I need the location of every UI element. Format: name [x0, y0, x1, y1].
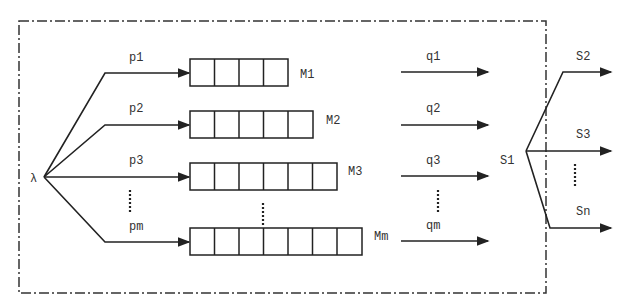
prob-label-2: p2	[129, 102, 143, 116]
outflow-label-2: q2	[426, 102, 440, 116]
queue-label-2: M2	[326, 114, 340, 128]
fanout-arrow-sn	[526, 151, 611, 228]
queue-m1	[190, 59, 288, 86]
queue-label-m: Mm	[374, 230, 388, 244]
server-label: S1	[500, 154, 514, 168]
queue-m3	[190, 163, 337, 190]
queue-label-1: M1	[300, 68, 314, 82]
queue-label-3: M3	[348, 165, 362, 179]
prob-label-1: p1	[129, 51, 143, 65]
outflow-label-1: q1	[426, 50, 440, 64]
downstream-label-s3: S3	[576, 128, 590, 142]
queue-mm	[190, 228, 362, 255]
fanout-arrow-s2	[526, 72, 611, 151]
branch-arrow-m	[44, 177, 189, 242]
prob-label-m: pm	[129, 220, 143, 234]
queue-m2	[190, 111, 313, 138]
downstream-label-sn: Sn	[576, 205, 590, 219]
branch-arrow-2	[44, 125, 189, 177]
queue-network-diagram: λ p1 p2 p3 pm M1 M2 M3 Mm q1 q2 q3 qm S1…	[0, 0, 632, 305]
outflow-label-m: qm	[426, 219, 440, 233]
outflow-label-3: q3	[426, 154, 440, 168]
source-label: λ	[30, 172, 37, 186]
downstream-label-s2: S2	[576, 50, 590, 64]
prob-label-3: p3	[129, 154, 143, 168]
